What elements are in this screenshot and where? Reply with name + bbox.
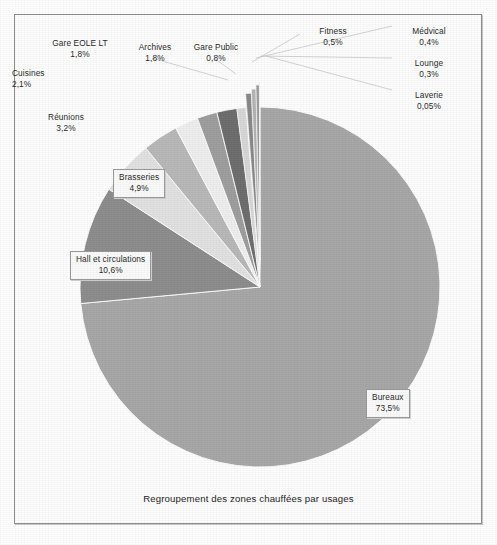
pie-label-value: 2,1% [12,79,98,90]
pie-label-brasseries: Brasseries 4,9% [113,169,165,198]
pie-label-reunions: Réunions 3,2% [18,112,114,134]
pie-label-value: 0,05% [396,101,462,112]
pie-label-fitness: Fitness 0,5% [302,26,364,48]
pie-label-name: Hall et circulations [76,254,145,265]
pie-label-value: 0,4% [396,37,462,48]
pie-label-name: Lounge [396,58,462,69]
pie-label-value: 0,8% [180,53,252,64]
pie-label-value: 1,8% [122,53,188,64]
pie-label-name: Fitness [302,26,364,37]
pie-leader-line [266,56,392,90]
pie-label-name: Archives [122,42,188,53]
pie-label-value: 73,5% [372,403,404,414]
pie-label-cuisines: Cuisines 2,1% [12,68,98,90]
pie-label-bureaux: Bureaux 73,5% [366,389,410,418]
pie-label-gare-public: Gare Public 0,8% [180,42,252,64]
figure-canvas: Gare EOLE LT 1,8% Cuisines 2,1% Réunions… [0,0,497,545]
pie-label-hall-et-circulations: Hall et circulations 10,6% [70,251,151,280]
pie-label-value: 10,6% [76,265,145,276]
pie-label-archives: Archives 1,8% [122,42,188,64]
pie-leader-line [252,34,300,62]
chart-title: Regroupement des zones chauffées par usa… [0,493,497,504]
pie-label-name: Médvical [396,26,462,37]
pie-label-name: Brasseries [119,172,159,183]
pie-label-medvical: Médvical 0,4% [396,26,462,48]
pie-label-name: Gare Public [180,42,252,53]
pie-label-value: 4,9% [119,183,159,194]
pie-label-name: Cuisines [12,68,98,79]
pie-label-value: 3,2% [18,123,114,134]
pie-label-name: Laverie [396,90,462,101]
pie-label-name: Réunions [18,112,114,123]
pie-label-lounge: Lounge 0,3% [396,58,462,80]
pie-label-value: 0,3% [396,69,462,80]
pie-label-name: Bureaux [372,392,404,403]
pie-leader-line [261,56,392,58]
pie-label-value: 0,5% [302,37,364,48]
pie-label-laverie: Laverie 0,05% [396,90,462,112]
